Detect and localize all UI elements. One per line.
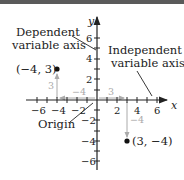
svg-text:variable axis: variable axis bbox=[11, 38, 86, 52]
svg-text:Dependent: Dependent bbox=[16, 25, 80, 39]
svg-text:−4: −4 bbox=[81, 136, 96, 147]
point-3-neg4 bbox=[124, 138, 129, 143]
svg-text:6: 6 bbox=[154, 105, 160, 116]
svg-text:6: 6 bbox=[86, 33, 92, 44]
svg-text:4: 4 bbox=[86, 53, 92, 64]
path-label-3-x: 3 bbox=[108, 86, 114, 97]
svg-text:Independent: Independent bbox=[108, 43, 182, 57]
dependent-axis-callout: Dependent variable axis bbox=[11, 25, 96, 52]
svg-text:Origin: Origin bbox=[38, 117, 76, 131]
svg-text:−6: −6 bbox=[81, 156, 96, 167]
y-axis-label: y bbox=[87, 15, 95, 28]
svg-text:−4: −4 bbox=[51, 105, 66, 116]
independent-leader-line bbox=[137, 71, 152, 96]
svg-text:2: 2 bbox=[86, 74, 92, 85]
svg-text:−6: −6 bbox=[31, 105, 46, 116]
x-axis-label: x bbox=[171, 99, 178, 112]
path-label-neg4-x: −4 bbox=[72, 86, 86, 97]
svg-text:2: 2 bbox=[114, 105, 120, 116]
point-label-neg4-3: (−4, 3) bbox=[16, 62, 57, 76]
svg-text:4: 4 bbox=[134, 105, 140, 116]
svg-text:−2: −2 bbox=[81, 115, 96, 126]
independent-axis-callout: Independent variable axis bbox=[108, 43, 184, 96]
svg-text:variable axis: variable axis bbox=[110, 56, 184, 70]
point-label-3-neg4: (3, −4) bbox=[132, 134, 173, 148]
coordinate-plane: −4 3 3 −4 −6 −4 −2 2 4 6 6 4 2 −2 −4 bbox=[0, 0, 184, 180]
path-label-3-y: 3 bbox=[48, 80, 54, 91]
